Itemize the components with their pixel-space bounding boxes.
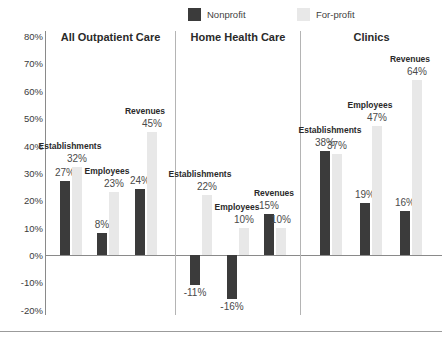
value-label-forprofit-employees: 47% [360,112,394,123]
category-label-revenues: Revenues [375,54,442,64]
bar-forprofit-employees[interactable] [239,228,249,255]
value-label-forprofit-employees: 10% [227,214,261,225]
y-tick-80: 80% [3,31,43,42]
y-tick-0: 0% [3,250,43,261]
bar-nonprofit-employees[interactable] [227,255,237,299]
legend-label-forprofit: For-profit [316,9,355,20]
legend-swatch-nonprofit [188,8,201,21]
y-tick-60: 60% [3,85,43,96]
panel-title: All Outpatient Care [46,31,175,43]
legend-label-nonprofit: Nonprofit [207,9,246,20]
category-label-revenues: Revenues [110,106,180,116]
legend-swatch-forprofit [297,8,310,21]
bar-forprofit-revenues[interactable] [412,80,422,255]
value-label-forprofit-revenues: 45% [135,118,169,129]
category-label-employees: Employees [335,100,405,110]
bar-nonprofit-establishments[interactable] [320,151,330,255]
y-tick-10: 10% [3,222,43,233]
bar-nonprofit-revenues[interactable] [135,189,145,255]
bar-nonprofit-establishments[interactable] [190,255,200,285]
y-tick-30: 30% [3,167,43,178]
value-label-forprofit-revenues: 10% [264,214,298,225]
bar-nonprofit-employees[interactable] [360,203,370,255]
bar-forprofit-establishments[interactable] [72,167,82,255]
legend-item-nonprofit[interactable]: Nonprofit [188,8,246,21]
chart-bottom-border [0,331,442,332]
y-tick-neg10: -10% [3,277,43,288]
bar-nonprofit-revenues[interactable] [400,211,410,255]
category-label-establishments: Establishments [165,169,235,179]
value-label-forprofit-establishments: 32% [60,153,94,164]
value-label-forprofit-revenues: 64% [400,66,434,77]
y-axis-tick-labels: 80%70%60%50%40%30%20%10%0%-10%-20% [0,0,43,342]
value-label-nonprofit-employees: -16% [215,301,249,312]
category-label-revenues: Revenues [239,188,309,198]
y-tick-50: 50% [3,113,43,124]
legend-item-forprofit[interactable]: For-profit [297,8,355,21]
panel-title: Home Health Care [176,31,300,43]
value-label-nonprofit-establishments: -11% [178,287,212,298]
category-label-establishments: Establishments [295,125,365,135]
y-tick-neg20: -20% [3,304,43,315]
value-label-forprofit-establishments: 37% [320,140,354,151]
value-label-nonprofit-revenues: 15% [252,200,286,211]
bar-forprofit-revenues[interactable] [147,132,157,255]
bar-forprofit-revenues[interactable] [276,228,286,255]
bar-nonprofit-establishments[interactable] [60,181,70,255]
chart-legend: NonprofitFor-profit [0,8,442,26]
category-label-establishments: Establishments [35,141,105,151]
value-label-forprofit-establishments: 22% [190,181,224,192]
bar-forprofit-establishments[interactable] [332,154,342,255]
y-tick-20: 20% [3,195,43,206]
bar-forprofit-employees[interactable] [372,126,382,255]
panel-title: Clinics [301,31,442,43]
bar-nonprofit-employees[interactable] [97,233,107,255]
chart-container: NonprofitFor-profit 80%70%60%50%40%30%20… [0,0,442,342]
y-tick-70: 70% [3,58,43,69]
bar-forprofit-employees[interactable] [109,192,119,255]
